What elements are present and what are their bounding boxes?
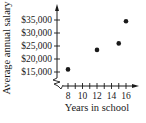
data-point	[124, 19, 129, 24]
x-tick-label: 10	[78, 91, 88, 101]
x-tick-label: 14	[107, 91, 117, 101]
data-point	[66, 67, 71, 72]
x-axis-arrow-icon	[132, 84, 139, 88]
x-tick-label: 16	[121, 91, 131, 101]
y-axis-arrow-icon	[55, 4, 59, 11]
data-point	[95, 48, 100, 53]
axis-break-icon	[53, 78, 63, 89]
data-points	[66, 19, 129, 72]
y-tick-label: $35,000	[21, 15, 52, 25]
x-tick-label: 12	[92, 91, 102, 101]
scatter-chart: $15,000$20,000$25,000$30,000$35,000 8101…	[0, 0, 146, 123]
y-tick-label: $20,000	[21, 54, 52, 64]
y-tick-label: $30,000	[21, 28, 52, 38]
x-tick-label: 8	[66, 91, 71, 101]
y-tick-label: $15,000	[21, 67, 52, 77]
y-axis-title: Average annual salary	[1, 1, 12, 95]
data-point	[116, 41, 121, 46]
y-ticks: $15,000$20,000$25,000$30,000$35,000	[21, 15, 60, 77]
y-tick-label: $25,000	[21, 41, 52, 51]
x-axis-title: Years in school	[65, 102, 129, 113]
